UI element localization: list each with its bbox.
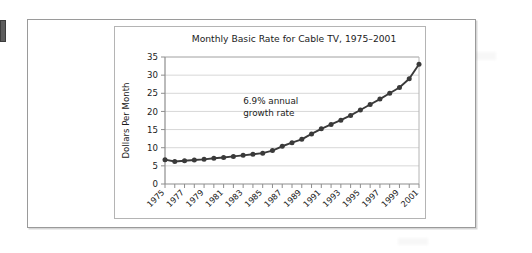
y-tick-label: 30 xyxy=(147,70,158,80)
data-point xyxy=(192,158,197,163)
page-edge-marker xyxy=(0,20,6,42)
x-tick-label: 2001 xyxy=(399,187,421,209)
x-tick-label: 1985 xyxy=(242,187,264,209)
data-point xyxy=(417,62,422,67)
x-tick-label: 1979 xyxy=(184,187,206,209)
x-tick-label: 1983 xyxy=(223,187,245,209)
y-axis-title: Dollars Per Month xyxy=(121,82,131,158)
data-point xyxy=(182,158,187,163)
figure-card: Monthly Basic Rate for Cable TV, 1975–20… xyxy=(27,19,476,228)
data-point xyxy=(309,131,314,136)
chart-panel: Monthly Basic Rate for Cable TV, 1975–20… xyxy=(114,26,426,219)
data-point xyxy=(231,154,236,159)
y-tick-label: 5 xyxy=(153,161,158,171)
data-point xyxy=(290,140,295,145)
y-tick-label: 35 xyxy=(147,52,158,62)
x-tick-label: 1975 xyxy=(145,187,167,209)
line-chart: Monthly Basic Rate for Cable TV, 1975–20… xyxy=(115,27,427,220)
x-tick-label: 1997 xyxy=(360,187,382,209)
data-point xyxy=(260,151,265,156)
data-point xyxy=(270,148,275,153)
data-point xyxy=(211,156,216,161)
data-point xyxy=(172,159,177,164)
data-point xyxy=(202,157,207,162)
x-tick-label: 1989 xyxy=(281,187,303,209)
data-point xyxy=(299,137,304,142)
scan-speckle xyxy=(398,238,428,245)
x-tick-label: 1999 xyxy=(379,187,401,209)
x-tick-label: 1987 xyxy=(262,187,284,209)
y-tick-label: 20 xyxy=(147,107,158,117)
data-point xyxy=(338,118,343,123)
data-point xyxy=(241,153,246,158)
data-point xyxy=(250,152,255,157)
y-tick-label: 25 xyxy=(147,88,158,98)
x-tick-label: 1995 xyxy=(340,187,362,209)
data-point xyxy=(387,91,392,96)
y-tick-label: 10 xyxy=(147,143,158,153)
x-tick-label: 1977 xyxy=(164,187,186,209)
data-point xyxy=(319,126,324,131)
x-tick-label: 1993 xyxy=(320,187,342,209)
data-point xyxy=(348,113,353,118)
data-point xyxy=(358,107,363,112)
data-point xyxy=(163,157,168,162)
data-point xyxy=(280,144,285,149)
x-tick-label: 1991 xyxy=(301,187,323,209)
data-point xyxy=(407,76,412,81)
x-tick-label: 1981 xyxy=(203,187,225,209)
data-point xyxy=(397,85,402,90)
y-tick-label: 15 xyxy=(147,125,158,135)
chart-title: Monthly Basic Rate for Cable TV, 1975–20… xyxy=(192,33,397,44)
y-tick-label: 0 xyxy=(153,179,158,189)
data-point xyxy=(221,155,226,160)
data-point xyxy=(329,122,334,127)
data-point xyxy=(368,102,373,107)
data-point xyxy=(377,97,382,102)
growth-rate-annotation: 6.9% annual xyxy=(243,96,298,106)
growth-rate-annotation: growth rate xyxy=(243,108,294,118)
